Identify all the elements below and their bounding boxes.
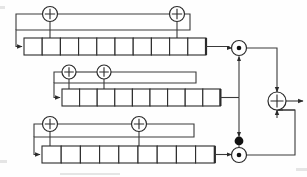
register-cell [138,146,157,163]
register-cell [115,38,133,55]
xor-middle-left [62,65,76,79]
register-cell [115,89,133,106]
xor-bottom-left [43,117,58,132]
register-cell [97,89,115,106]
register-cell [24,38,42,55]
register-cell [100,146,119,163]
register-cell [132,89,150,106]
xor-middle-right [97,65,111,79]
diagram-canvas: + • ● [0,0,307,177]
lfsr-middle [54,72,239,106]
lfsr-middle-cells [62,89,220,106]
geffe-generator-svg [0,0,307,177]
lfsr-top-output-wire [206,47,232,49]
register-cell [42,146,61,163]
register-cell [157,146,176,163]
and-bottom-output-rail [247,110,296,155]
lfsr-top-cells [24,38,206,55]
register-cell [185,89,203,106]
lfsr-bottom [34,124,232,163]
lfsr-top-left-wrap [16,14,43,30]
register-cell [133,38,151,55]
register-cell [79,38,97,55]
register-cell [196,146,215,163]
register-cell [61,146,80,163]
register-cell [119,146,138,163]
register-cell [80,146,99,163]
register-cell [170,38,188,55]
register-cell [62,89,80,106]
register-cell [203,89,221,106]
lfsr-bottom-left-wrap [34,124,43,137]
register-cell [188,38,206,55]
register-cell [151,38,169,55]
xor-top-right [170,7,185,22]
not-bubble-icon [235,137,244,146]
and-top-output-wire [247,48,278,92]
xor-output [268,92,286,110]
and-gate-top [232,41,247,56]
register-cell [150,89,168,106]
register-cell [80,89,98,106]
xor-top-left [43,7,58,22]
xor-bottom-right [132,117,147,132]
register-cell [176,146,195,163]
register-cell [42,38,60,55]
lfsr-middle-left-wrap [54,72,62,83]
register-cell [60,38,78,55]
and-gate-bottom [232,148,247,163]
lfsr-bottom-cells [42,146,215,163]
register-cell [168,89,186,106]
register-cell [97,38,115,55]
